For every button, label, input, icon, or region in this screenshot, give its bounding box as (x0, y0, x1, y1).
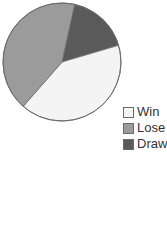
legend-label-win: Win (137, 104, 159, 120)
legend-swatch-lose (123, 123, 134, 134)
legend-swatch-draw (123, 139, 134, 150)
legend-item-draw: Draw (123, 136, 167, 152)
legend-item-win: Win (123, 104, 167, 120)
legend-item-lose: Lose (123, 120, 167, 136)
legend-label-draw: Draw (137, 136, 167, 152)
legend: Win Lose Draw (123, 104, 167, 152)
legend-label-lose: Lose (137, 120, 165, 136)
legend-swatch-win (123, 107, 134, 118)
